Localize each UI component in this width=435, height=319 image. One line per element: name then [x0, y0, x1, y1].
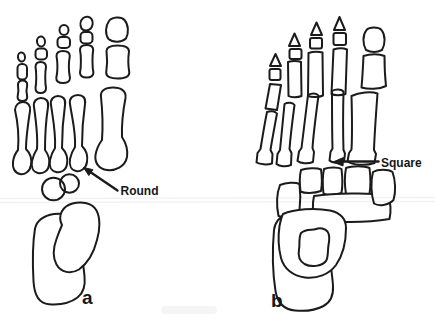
b-proximal-phalanx-2: [332, 48, 348, 95]
b-distal-phalanx-1: [363, 28, 384, 52]
a-proximal-phalanx-2: [80, 45, 93, 78]
b-distal-phalanx-2: [334, 17, 345, 30]
b-distal-phalanx-4: [289, 34, 300, 47]
square-label: Square: [381, 156, 422, 170]
b-intermediate-cuneiform: [323, 168, 342, 195]
b-middle-phalanx-2: [334, 33, 347, 45]
foot-b-illustration: b: [257, 17, 396, 311]
a-talus: [54, 202, 100, 272]
a-middle-phalanx-4: [36, 49, 48, 60]
a-proximal-phalanx-1: [106, 46, 129, 79]
b-metatarsal-4: [277, 103, 295, 166]
b-distal-phalanx-3: [311, 23, 322, 36]
a-middle-phalanx-3: [58, 37, 71, 48]
b-metatarsal-2: [330, 90, 346, 163]
round-annotation: Round: [84, 168, 159, 199]
a-metatarsal-5: [13, 102, 31, 174]
b-proximal-phalanx-4: [288, 61, 302, 97]
scan-smudge: [161, 306, 217, 314]
foot-a-illustration: a: [13, 17, 129, 308]
square-arrow-icon: [333, 158, 344, 167]
a-middle-phalanx-5: [18, 64, 28, 80]
a-middle-phalanx-2: [81, 32, 93, 44]
a-proximal-phalanx-5: [18, 81, 28, 102]
b-middle-phalanx-4: [290, 49, 302, 59]
figure-canvas: a: [0, 0, 435, 319]
a-proximal-phalanx-4: [36, 62, 47, 93]
b-proximal-phalanx-1: [362, 54, 387, 89]
b-middle-phalanx-3: [310, 38, 322, 49]
b-lateral-cuneiform: [300, 168, 322, 193]
b-middle-phalanx-5: [270, 69, 281, 80]
a-distal-phalanx-1: [106, 18, 128, 42]
a-distal-phalanx-4: [36, 36, 45, 47]
round-arrow-shaft: [91, 173, 118, 191]
a-distal-phalanx-2: [80, 17, 92, 31]
a-metatarsal-1: [95, 88, 127, 171]
a-metatarsal-4: [32, 98, 50, 173]
panel-b-label: b: [271, 290, 283, 311]
a-proximal-phalanx-3: [56, 51, 70, 83]
b-proximal-phalanx-5: [266, 84, 282, 110]
b-metatarsal-3: [298, 94, 319, 164]
b-medial-cuneiform: [345, 166, 370, 196]
b-metatarsal-5: [257, 111, 278, 164]
round-arrow-icon: [84, 168, 93, 176]
b-proximal-phalanx-3: [308, 52, 323, 97]
round-label: Round: [121, 184, 159, 198]
b-distal-phalanx-5: [270, 54, 281, 66]
a-distal-phalanx-5: [17, 52, 25, 62]
b-metatarsal-1: [348, 92, 378, 165]
a-metatarsal-2: [70, 95, 88, 171]
a-distal-phalanx-3: [60, 25, 69, 35]
b-talus: [279, 209, 346, 278]
a-metatarsal-3: [50, 96, 68, 172]
foot-bones-diagram: a: [0, 0, 435, 319]
b-first-cuneiform-medial: [371, 170, 395, 205]
panel-a-label: a: [82, 287, 93, 308]
